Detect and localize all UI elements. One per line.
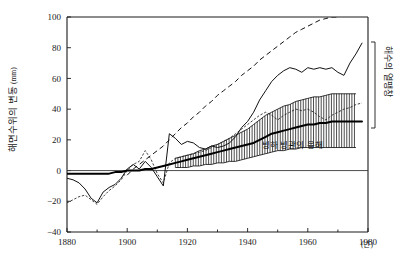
y-tick-label: −20 [47, 196, 62, 206]
chart-figure: 100806040200−20−40 188019001920194019601… [0, 0, 401, 265]
y-axis-unit: (mm) [9, 67, 18, 84]
right-bracket-group: 해수의 열팽창 [371, 42, 393, 128]
y-axis-tick-labels: 100806040200−20−40 [47, 12, 62, 237]
y-tick-label: −40 [47, 227, 62, 237]
data-series-group [67, 17, 362, 204]
x-axis-unit-suffix: (년) [361, 239, 373, 249]
x-tick-label: 1920 [178, 237, 197, 247]
y-tick-label: 80 [52, 43, 62, 53]
band-lower-edge [175, 148, 356, 168]
y-tick-label: 100 [48, 12, 62, 22]
y-axis-title-group: 해면수위의 변동 (mm) [7, 67, 18, 152]
x-axis-tick-labels: 188019001920194019601980 [58, 237, 378, 247]
y-axis-title: 해면수위의 변동 [7, 86, 18, 152]
y-tick-label: 40 [52, 104, 62, 114]
y-axis-ticks [67, 17, 71, 232]
plot-frame [67, 17, 368, 232]
y-tick-label: 20 [52, 135, 62, 145]
right-bracket-label: 해수의 열팽창 [383, 46, 393, 97]
y-tick-label: 60 [52, 74, 62, 84]
series-thermal-expansion-dashed [127, 17, 338, 175]
band-label: 빙하 빙관의 융해 [262, 140, 323, 150]
x-tick-label: 1900 [118, 237, 137, 247]
x-tick-label: 1940 [239, 237, 258, 247]
x-tick-label: 1880 [58, 237, 77, 247]
x-tick-label: 1960 [299, 237, 318, 247]
chart-canvas: 100806040200−20−40 188019001920194019601… [0, 0, 401, 265]
x-axis-ticks [67, 228, 368, 232]
y-tick-label: 0 [57, 166, 62, 176]
